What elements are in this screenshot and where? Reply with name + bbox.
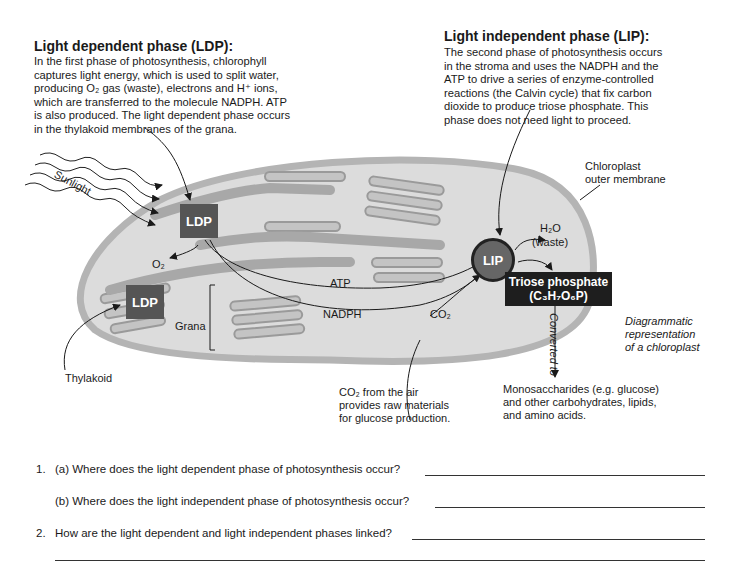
- answer-line-2b[interactable]: [55, 560, 705, 561]
- note-line: CO₂ from the air: [339, 386, 450, 399]
- h2o-label: H₂O: [540, 222, 561, 235]
- converted-to-label: Converted to: [547, 313, 560, 376]
- ldp-box-upper: LDP: [180, 204, 218, 238]
- answer-line-2a[interactable]: [412, 539, 705, 540]
- triose-phosphate-box: Triose phosphate (C₃H₇O₆P): [505, 272, 612, 306]
- question-2-number: 2.: [36, 527, 46, 539]
- question-2: How are the light dependent and light in…: [55, 527, 392, 539]
- triose-title: Triose phosphate: [505, 275, 612, 289]
- note-line: Monosaccharides (e.g. glucose): [503, 383, 659, 396]
- label-line: Chloroplast: [585, 160, 666, 173]
- question-1-number: 1.: [36, 463, 46, 475]
- waste-label: (waste): [532, 236, 568, 249]
- note-line: for glucose production.: [339, 412, 450, 425]
- note-line: and other carbohydrates, lipids,: [503, 396, 659, 409]
- triose-formula: (C₃H₇O₆P): [505, 289, 612, 303]
- o2-label: O₂: [152, 258, 165, 271]
- caption-line: of a chloroplast: [625, 341, 700, 354]
- atp-label: ATP: [330, 277, 351, 290]
- caption-line: Diagrammatic: [625, 315, 700, 328]
- thylakoid-label: Thylakoid: [65, 372, 112, 385]
- chloroplast-diagram: [0, 0, 740, 575]
- note-line: provides raw materials: [339, 399, 450, 412]
- nadph-label: NADPH: [323, 308, 362, 321]
- label-line: outer membrane: [585, 173, 666, 186]
- outer-membrane-label: Chloroplast outer membrane: [585, 160, 666, 186]
- caption-line: representation: [625, 328, 700, 341]
- question-1a: (a) Where does the light dependent phase…: [55, 463, 400, 475]
- products-note: Monosaccharides (e.g. glucose) and other…: [503, 383, 659, 422]
- diagram-caption: Diagrammatic representation of a chlorop…: [625, 315, 700, 354]
- answer-line-1b[interactable]: [435, 507, 705, 508]
- co2-label: CO₂: [430, 308, 451, 321]
- answer-line-1a[interactable]: [425, 475, 705, 476]
- note-line: and amino acids.: [503, 409, 659, 422]
- co2-note: CO₂ from the air provides raw materials …: [339, 386, 450, 425]
- grana-label: Grana: [175, 320, 206, 333]
- question-1b: (b) Where does the light independent pha…: [55, 495, 409, 507]
- ldp-box-lower: LDP: [126, 285, 164, 319]
